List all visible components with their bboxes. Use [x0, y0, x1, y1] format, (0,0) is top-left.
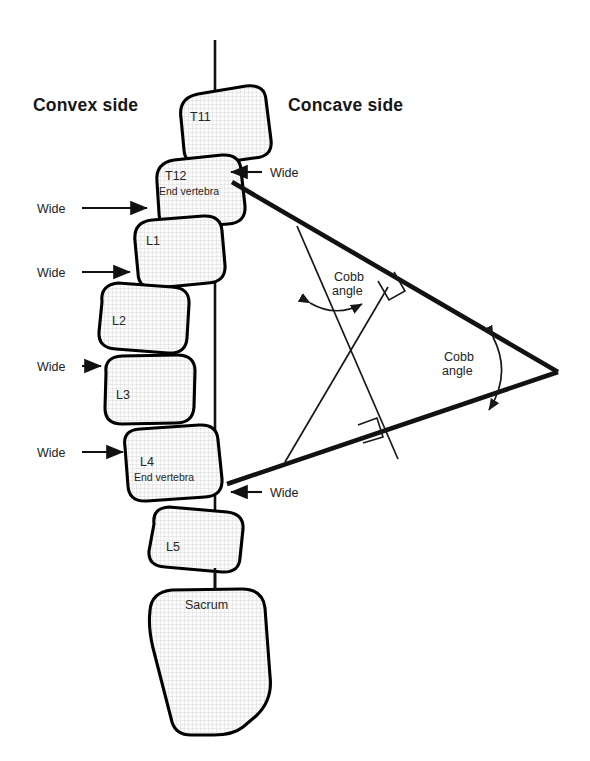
cobb-angle-arc-apex: [489, 337, 502, 410]
wide-label-left-l3: Wide: [37, 446, 66, 460]
vertebra-sacrum-label: Sacrum: [185, 598, 228, 612]
cobb-angle-label-perpendicular-line2: angle: [332, 284, 363, 298]
wide-label-left-l1: Wide: [37, 266, 66, 280]
vertebra-t12-label: T12: [165, 169, 187, 183]
cobb-angle-diagram: Convex side Concave side T11 T12 End ver…: [0, 0, 590, 761]
vertebra-t11-label: T11: [190, 110, 211, 124]
concave-side-label: Concave side: [288, 95, 403, 115]
lower-endplate-line: [227, 372, 558, 484]
cobb-angle-label-perpendicular-line1: Cobb: [334, 270, 364, 284]
vertebra-l4-sublabel: End vertebra: [134, 471, 194, 483]
cobb-angle-label-apex-line1: Cobb: [444, 350, 474, 364]
vertebra-l1-body: [135, 216, 225, 288]
vertebra-l1-label: L1: [146, 234, 160, 248]
upper-perpendicular-line: [297, 226, 398, 459]
vertebra-t12-sublabel: End vertebra: [159, 185, 219, 197]
upper-endplate-line: [232, 182, 558, 372]
wide-label-right-t12: Wide: [270, 166, 299, 180]
cobb-angle-arc-perpendicular: [310, 303, 362, 311]
wide-label-left-t12: Wide: [37, 202, 66, 216]
convex-side-label: Convex side: [33, 95, 138, 115]
diagram-canvas: Convex side Concave side T11 T12 End ver…: [0, 0, 590, 761]
vertebra-l5-body: [149, 507, 243, 572]
wide-label-right-l4: Wide: [270, 486, 299, 500]
vertebra-t11-body: [181, 86, 272, 165]
vertebra-l3-label: L3: [116, 388, 130, 402]
wide-label-left-l2: Wide: [37, 360, 66, 374]
vertebra-l4-label: L4: [140, 455, 154, 469]
vertebra-l2-label: L2: [112, 314, 126, 328]
vertebra-l5-label: L5: [166, 540, 180, 554]
cobb-angle-label-apex-line2: angle: [442, 364, 473, 378]
